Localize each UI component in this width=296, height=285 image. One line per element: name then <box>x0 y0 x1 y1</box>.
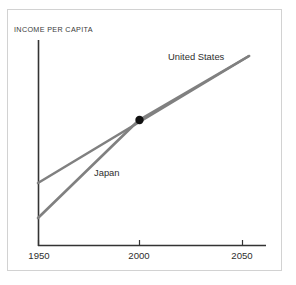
series-label-japan: Japan <box>94 167 120 178</box>
x-tick-label-2050: 2050 <box>222 250 262 261</box>
chart-plot-area <box>0 0 296 285</box>
x-tick-label-1950: 1950 <box>19 250 59 261</box>
x-tick-label-2000: 2000 <box>119 250 159 261</box>
series-label-united-states: United States <box>168 51 224 62</box>
crossover-point-marker <box>135 116 143 124</box>
series-line-japan <box>38 56 249 218</box>
chart-figure: INCOME PER CAPITA United States Japan 19… <box>0 0 296 285</box>
y-axis-title: INCOME PER CAPITA <box>14 25 93 34</box>
